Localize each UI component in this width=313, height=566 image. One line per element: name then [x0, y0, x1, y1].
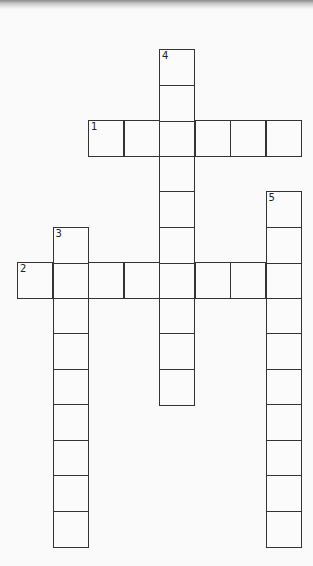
crossword-cell[interactable]: 1 [88, 120, 124, 157]
crossword-cell[interactable] [159, 120, 195, 157]
crossword-cell[interactable] [195, 262, 231, 299]
crossword-cell[interactable] [53, 475, 89, 512]
clue-number: 1 [91, 121, 97, 133]
crossword-cell[interactable] [230, 120, 266, 157]
crossword-cell[interactable]: 3 [53, 227, 89, 264]
crossword-cell[interactable] [159, 156, 195, 193]
crossword-cell[interactable] [124, 262, 160, 299]
crossword-cell[interactable] [53, 262, 89, 299]
crossword-cell[interactable] [266, 369, 302, 406]
crossword-cell[interactable] [266, 475, 302, 512]
crossword-cell[interactable] [53, 440, 89, 477]
crossword-cell[interactable]: 4 [159, 49, 195, 86]
crossword-cell[interactable]: 5 [266, 191, 302, 228]
crossword-cell[interactable] [53, 369, 89, 406]
crossword-cell[interactable] [266, 120, 302, 157]
crossword-cell[interactable] [159, 298, 195, 335]
crossword-cell[interactable] [53, 511, 89, 548]
crossword-cell[interactable] [266, 440, 302, 477]
crossword-cell[interactable] [266, 404, 302, 441]
crossword-cell[interactable] [159, 262, 195, 299]
crossword-cell[interactable] [159, 191, 195, 228]
crossword-cell[interactable] [159, 227, 195, 264]
crossword-cell[interactable] [53, 298, 89, 335]
crossword-cell[interactable] [266, 262, 302, 299]
clue-number: 3 [56, 228, 62, 240]
clue-number: 2 [20, 263, 26, 275]
crossword-cell[interactable] [159, 85, 195, 122]
crossword-cell[interactable] [195, 120, 231, 157]
crossword-cell[interactable] [53, 333, 89, 370]
crossword-cell[interactable] [230, 262, 266, 299]
crossword-cell[interactable] [88, 262, 124, 299]
crossword-cell[interactable] [124, 120, 160, 157]
crossword-cell[interactable]: 2 [17, 262, 53, 299]
crossword-grid: 12345 [0, 0, 313, 566]
crossword-cell[interactable] [266, 298, 302, 335]
crossword-cell[interactable] [266, 333, 302, 370]
crossword-cell[interactable] [159, 369, 195, 406]
clue-number: 4 [162, 50, 168, 62]
crossword-cell[interactable] [159, 333, 195, 370]
crossword-cell[interactable] [266, 227, 302, 264]
clue-number: 5 [269, 192, 275, 204]
crossword-cell[interactable] [266, 511, 302, 548]
crossword-cell[interactable] [53, 404, 89, 441]
